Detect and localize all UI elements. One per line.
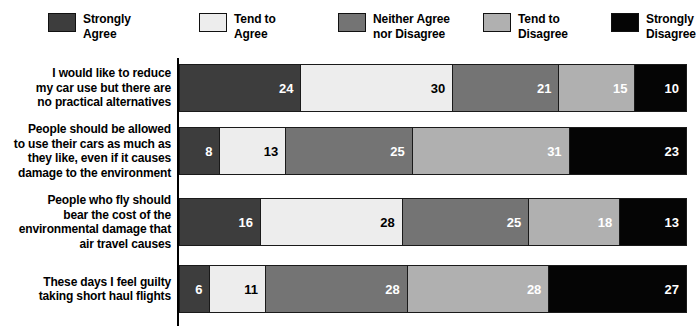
stacked-bar: 1628251813 — [179, 198, 687, 246]
bar-segment: 30 — [301, 65, 453, 111]
chart-legend: Strongly AgreeTend to AgreeNeither Agree… — [0, 12, 694, 56]
bar-segment: 10 — [635, 65, 686, 111]
stacked-bar: 813253123 — [179, 127, 687, 175]
bar-segment: 8 — [180, 128, 220, 174]
legend-color-swatch — [199, 13, 227, 32]
bar-segment: 31 — [413, 128, 570, 174]
bar-segment: 13 — [620, 199, 686, 245]
bar-segment: 6 — [180, 266, 210, 312]
bar-segment: 27 — [549, 266, 686, 312]
legend-color-swatch — [48, 13, 76, 32]
legend-item: Strongly Disagree — [611, 12, 696, 41]
bar-segment: 18 — [529, 199, 620, 245]
legend-color-swatch — [483, 13, 511, 32]
bar-segment: 25 — [286, 128, 413, 174]
legend-item-label: Neither Agree nor Disagree — [373, 12, 450, 41]
bar-segment: 16 — [180, 199, 261, 245]
stacked-bar: 2430211510 — [179, 64, 687, 112]
legend-item-label: Tend to Agree — [234, 12, 276, 41]
bar-segment: 15 — [559, 65, 635, 111]
legend-item-label: Tend to Disagree — [518, 12, 568, 41]
bar-segment: 21 — [453, 65, 559, 111]
bar-segment: 25 — [403, 199, 530, 245]
bar-segment: 28 — [408, 266, 550, 312]
legend-item: Tend to Disagree — [483, 12, 568, 41]
legend-item: Tend to Agree — [199, 12, 276, 41]
category-label: I would like to reduce my car use but th… — [0, 66, 174, 110]
category-label: People should be allowed to use their ca… — [0, 122, 174, 180]
category-label: These days I feel guilty taking short ha… — [0, 275, 174, 304]
legend-color-swatch — [611, 13, 639, 32]
legend-item-label: Strongly Disagree — [646, 12, 696, 41]
legend-item: Strongly Agree — [48, 12, 131, 41]
legend-item-label: Strongly Agree — [83, 12, 131, 41]
chart-plot-area: I would like to reduce my car use but th… — [0, 56, 694, 335]
stacked-bar: 611282827 — [179, 265, 687, 313]
bar-segment: 23 — [570, 128, 686, 174]
bar-segment: 28 — [261, 199, 403, 245]
legend-color-swatch — [338, 13, 366, 32]
category-label: People who fly should bear the cost of t… — [0, 193, 174, 251]
bar-segment: 13 — [220, 128, 286, 174]
legend-item: Neither Agree nor Disagree — [338, 12, 450, 41]
bar-segment: 24 — [180, 65, 301, 111]
bar-segment: 11 — [210, 266, 266, 312]
bar-segment: 28 — [266, 266, 408, 312]
